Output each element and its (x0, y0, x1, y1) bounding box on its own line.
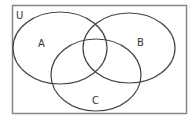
set-a-label: A (38, 38, 45, 49)
set-c-label: C (92, 95, 99, 106)
venn-diagram: U A B C (0, 0, 195, 120)
universe-label: U (16, 10, 23, 21)
set-b-label: B (137, 37, 144, 48)
